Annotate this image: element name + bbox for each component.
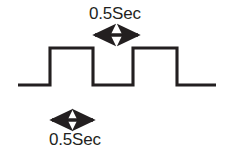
timing-diagram-figure: 0.5Sec 0.5Sec xyxy=(0,0,232,155)
diagram-canvas xyxy=(0,0,232,155)
waveform-polyline xyxy=(18,48,216,85)
top-duration-label: 0.5Sec xyxy=(89,4,141,23)
square-wave-trace xyxy=(18,48,216,85)
bottom-duration-label: 0.5Sec xyxy=(49,130,101,149)
